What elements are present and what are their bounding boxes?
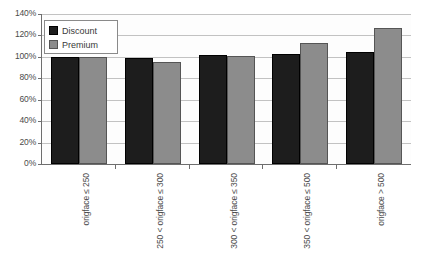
bar-premium[interactable] — [300, 43, 328, 164]
bar-discount[interactable] — [272, 54, 300, 164]
legend-label-premium: Premium — [62, 40, 98, 50]
bar-group — [346, 14, 402, 164]
x-axis-label: 250 < origface ≤ 300 — [156, 173, 165, 249]
x-axis-label: origface > 500 — [377, 173, 386, 226]
y-tick-mark — [38, 14, 42, 15]
bar-discount[interactable] — [346, 52, 374, 165]
legend-item-discount: Discount — [49, 24, 113, 37]
y-axis-label: 80% — [0, 73, 36, 82]
x-axis-label: 300 < origface ≤ 350 — [230, 173, 239, 249]
y-tick-mark — [38, 57, 42, 58]
y-tick-mark — [38, 78, 42, 79]
y-tick-mark — [38, 100, 42, 101]
y-axis-label: 120% — [0, 30, 36, 39]
y-axis-label: 60% — [0, 95, 36, 104]
y-axis-label: 140% — [0, 9, 36, 18]
bar-discount[interactable] — [51, 57, 79, 164]
y-axis-label: 100% — [0, 52, 36, 61]
x-tick-mark — [262, 165, 263, 169]
bar-group — [272, 14, 328, 164]
bar-premium[interactable] — [79, 57, 107, 164]
y-tick-mark — [38, 35, 42, 36]
x-axis-label: 350 < origface ≤ 500 — [303, 173, 312, 249]
y-axis-label: 0% — [0, 159, 36, 168]
premium-swatch-icon — [49, 40, 58, 49]
legend-item-premium: Premium — [49, 38, 113, 51]
y-tick-mark — [38, 121, 42, 122]
bar-discount[interactable] — [125, 58, 153, 164]
bar-premium[interactable] — [153, 62, 181, 164]
y-axis-label: 40% — [0, 116, 36, 125]
discount-swatch-icon — [49, 26, 58, 35]
bar-group — [125, 14, 181, 164]
y-tick-mark — [38, 164, 42, 165]
y-tick-mark — [38, 143, 42, 144]
y-axis-label: 20% — [0, 138, 36, 147]
x-tick-mark — [336, 165, 337, 169]
chart-legend: Discount Premium — [44, 20, 118, 54]
bar-chart: 0%20%40%60%80%100%120%140% origface ≤ 25… — [0, 0, 435, 268]
bar-premium[interactable] — [227, 56, 255, 164]
x-tick-mark — [115, 165, 116, 169]
x-axis-label: origface ≤ 250 — [82, 173, 91, 225]
bar-premium[interactable] — [374, 28, 402, 164]
legend-label-discount: Discount — [62, 26, 97, 36]
bar-group — [199, 14, 255, 164]
x-tick-mark — [189, 165, 190, 169]
bar-discount[interactable] — [199, 55, 227, 164]
